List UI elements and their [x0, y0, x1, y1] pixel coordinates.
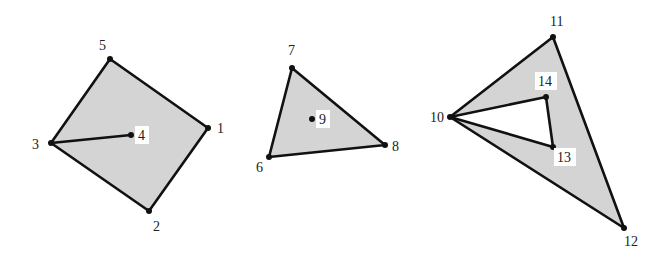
vertex-3	[48, 140, 54, 146]
vertex-label-4: 4	[138, 128, 145, 143]
vertex-label-9: 9	[319, 112, 326, 127]
vertex-label-10: 10	[430, 110, 444, 125]
vertex-8	[382, 142, 388, 148]
diagram-canvas: 1234567891011121314	[0, 0, 672, 260]
vertex-9	[309, 116, 315, 122]
vertex-2	[146, 208, 152, 214]
vertex-label-7: 7	[288, 43, 295, 58]
vertex-label-8: 8	[392, 139, 399, 154]
vertex-label-5: 5	[99, 38, 106, 53]
vertex-label-13: 13	[557, 150, 571, 165]
vertex-label-14: 14	[538, 74, 552, 89]
vertex-6	[266, 154, 272, 160]
vertex-5	[107, 56, 113, 62]
vertex-11	[550, 34, 556, 40]
vertex-14	[543, 94, 549, 100]
planar-regions-diagram: 1234567891011121314	[0, 0, 672, 260]
vertex-7	[289, 65, 295, 71]
vertex-label-6: 6	[256, 160, 263, 175]
vertex-label-3: 3	[32, 137, 39, 152]
vertex-4	[128, 132, 134, 138]
vertex-label-2: 2	[153, 219, 160, 234]
vertex-label-1: 1	[217, 121, 224, 136]
vertex-10	[447, 114, 453, 120]
vertex-12	[621, 225, 627, 231]
vertex-label-11: 11	[550, 14, 563, 29]
vertex-label-12: 12	[624, 234, 638, 249]
vertex-1	[205, 125, 211, 131]
